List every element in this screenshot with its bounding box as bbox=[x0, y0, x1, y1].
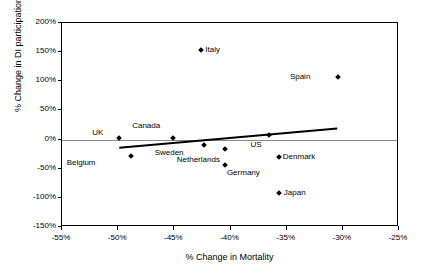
y-tick-mark bbox=[58, 139, 62, 140]
data-point-label: Denmark bbox=[283, 152, 315, 161]
y-tick-label: -100% bbox=[16, 192, 56, 201]
x-tick-mark bbox=[173, 226, 174, 230]
data-point-label: UK bbox=[92, 128, 103, 137]
y-tick-mark bbox=[58, 197, 62, 198]
x-tick-label: -30% bbox=[322, 233, 362, 242]
x-tick-label: -55% bbox=[41, 233, 81, 242]
y-tick-mark bbox=[58, 80, 62, 81]
x-tick-label: -35% bbox=[266, 233, 306, 242]
y-tick-label: -50% bbox=[16, 163, 56, 172]
x-tick-mark bbox=[398, 226, 399, 230]
data-point-label: Canada bbox=[132, 121, 160, 130]
y-tick-mark bbox=[58, 51, 62, 52]
x-tick-mark bbox=[342, 226, 343, 230]
x-tick-label: -40% bbox=[210, 233, 250, 242]
y-tick-mark bbox=[58, 22, 62, 23]
trendline bbox=[62, 23, 399, 227]
x-tick-label: -50% bbox=[97, 233, 137, 242]
x-tick-mark bbox=[230, 226, 231, 230]
data-point-label: Belgium bbox=[67, 158, 96, 167]
y-tick-label: -150% bbox=[16, 221, 56, 230]
plot-area bbox=[61, 22, 398, 226]
data-point-label: Germany bbox=[227, 168, 260, 177]
data-point-label: Japan bbox=[284, 188, 306, 197]
x-tick-label: -45% bbox=[153, 233, 193, 242]
x-tick-mark bbox=[61, 226, 62, 230]
x-tick-mark bbox=[117, 226, 118, 230]
y-axis-label: % Change in DI participation bbox=[13, 0, 23, 135]
x-tick-mark bbox=[286, 226, 287, 230]
x-tick-label: -25% bbox=[378, 233, 418, 242]
scatter-chart: -150%-100%-50%0%50%100%150%200% -55%-50%… bbox=[0, 0, 434, 279]
data-point-label: US bbox=[251, 140, 262, 149]
data-point-label: Spain bbox=[290, 72, 310, 81]
data-point-label: Netherlands bbox=[177, 155, 220, 164]
y-tick-mark bbox=[58, 109, 62, 110]
y-tick-mark bbox=[58, 168, 62, 169]
x-axis-label: % Change in Mortality bbox=[61, 252, 398, 262]
data-point-label: Italy bbox=[205, 45, 220, 54]
